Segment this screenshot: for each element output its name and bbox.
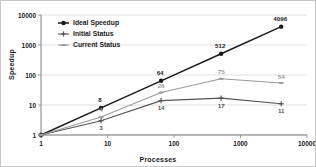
x-tick-label: 10 [104, 140, 112, 147]
data-point-label: 11 [278, 107, 285, 114]
data-point-marker [61, 21, 65, 25]
x-tick-label: 10000 [298, 140, 316, 147]
y-axis-title: Speedup [8, 37, 15, 93]
y-tick-label: 10 [29, 102, 37, 109]
data-point-label: 54 [278, 73, 285, 80]
data-point-label: 8 [98, 96, 102, 103]
data-point-label: 512 [215, 42, 226, 49]
y-tick-label: 10000 [18, 12, 36, 19]
data-point-label: 26 [158, 82, 165, 89]
x-tick-label: 1 [39, 140, 43, 147]
data-point-marker [279, 24, 283, 28]
x-tick-label: 1000 [233, 140, 248, 147]
data-point-marker [220, 78, 222, 80]
y-tick-label: 1 [32, 132, 36, 139]
data-point-label: 64 [157, 69, 164, 76]
data-point-marker [160, 92, 162, 94]
legend-item-label: Ideal Speedup [73, 19, 119, 27]
legend-item-label: Initial Status [73, 30, 114, 37]
data-point-label: 14 [158, 104, 165, 111]
data-point-marker [219, 52, 223, 56]
y-tick-label: 1000 [22, 42, 37, 49]
data-point-label: 3 [99, 124, 103, 131]
chart-canvas: 1101001000100001101001000100008645124096… [1, 1, 316, 167]
data-point-marker [100, 116, 102, 118]
data-point-marker [280, 82, 282, 84]
speedup-chart: 1101001000100001101001000100008645124096… [0, 0, 316, 167]
data-point-label: 4 [99, 106, 103, 113]
y-tick-label: 100 [25, 72, 36, 79]
data-point-marker [63, 44, 65, 46]
data-point-label: 75 [218, 68, 225, 75]
data-point-label: 4096 [273, 15, 287, 22]
x-axis-title: Processes [1, 156, 315, 163]
legend-item-label: Current Status [73, 41, 120, 48]
data-point-label: 17 [218, 102, 225, 109]
data-point-marker [40, 134, 42, 136]
x-tick-label: 100 [169, 140, 180, 147]
